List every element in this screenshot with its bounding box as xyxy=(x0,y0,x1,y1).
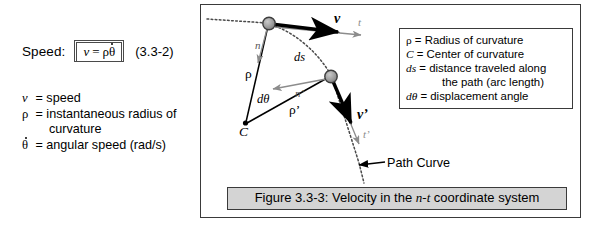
equation-box: v=ρθ xyxy=(74,40,124,62)
label-normal-n: n xyxy=(255,40,261,51)
legend-text-rho: = Radius of curvature xyxy=(415,34,524,46)
label-normal-n-prime: n’ xyxy=(295,88,304,99)
label-angle-dtheta: dθ xyxy=(257,93,269,106)
nomenclature-symbol-v: v xyxy=(22,91,32,107)
legend-text-dtheta: = displacement angle xyxy=(420,90,528,102)
speed-equation-row: Speed: v=ρθ (3.3-2) xyxy=(22,40,174,62)
nomenclature-list: v = speed ρ = instantaneous radius of cu… xyxy=(22,91,177,153)
nomenclature-text-v: = speed xyxy=(36,91,81,105)
legend-item-ds-cont: the path (arc length) xyxy=(406,75,567,89)
legend-item-C: C = Center of curvature xyxy=(406,47,567,61)
equation-inner: v=ρθ xyxy=(76,42,122,62)
figure-caption-suffix: coordinate system xyxy=(430,190,539,205)
legend-symbol-ds: ds xyxy=(406,62,416,74)
label-radius-rho: ρ xyxy=(245,67,252,81)
nomenclature-item-curvature: curvature xyxy=(22,122,177,138)
particle-node-1 xyxy=(263,17,275,29)
label-arc-ds: ds xyxy=(294,51,305,64)
figure-caption-prefix: Figure 3.3-3: Velocity in the xyxy=(255,190,416,205)
nomenclature-text-rho: = instantaneous radius of xyxy=(36,107,177,121)
label-center-C: C xyxy=(239,125,248,139)
legend-symbol-rho: ρ xyxy=(406,34,412,46)
label-velocity-v: v xyxy=(334,12,340,26)
speed-label: Speed: xyxy=(22,44,65,59)
equation-theta-dot: θ xyxy=(109,44,115,60)
path-curve-label: Path Curve xyxy=(387,156,450,170)
velocity-vector-v-prime xyxy=(332,79,351,123)
label-tangent-t-prime: t’ xyxy=(363,129,370,140)
nomenclature-item-rho: ρ = instantaneous radius of xyxy=(22,107,177,123)
legend-text-ds-cont: the path (arc length) xyxy=(442,76,544,88)
label-tangent-t: t xyxy=(358,17,361,28)
label-radius-rho-prime: ρ’ xyxy=(289,103,300,117)
legend-item-ds: ds = distance traveled along xyxy=(406,61,567,75)
definitions-column: Speed: v=ρθ (3.3-2) v = speed ρ = instan… xyxy=(0,0,200,228)
path-curve-leader-line xyxy=(359,162,385,165)
legend-item-rho: ρ = Radius of curvature xyxy=(406,33,567,47)
nomenclature-text-theta-dot: = angular speed (rad/s) xyxy=(36,138,167,152)
equation-number: (3.3-2) xyxy=(135,44,173,59)
legend-text-C: = Center of curvature xyxy=(417,48,524,60)
figure-panel: v t n ds ρ dθ ρ’ n’ v’ t’ C Path Curve ρ… xyxy=(200,4,581,218)
label-velocity-v-prime: v’ xyxy=(357,108,368,122)
nomenclature-symbol-theta-dot: θ xyxy=(22,138,32,154)
nomenclature-item-theta-dot: θ = angular speed (rad/s) xyxy=(22,138,177,154)
legend-symbol-C: C xyxy=(406,48,414,60)
particle-node-2 xyxy=(325,70,337,82)
equation-equals: = xyxy=(89,44,102,59)
nomenclature-text-curvature: curvature xyxy=(49,122,102,136)
nomenclature-item-v: v = speed xyxy=(22,91,177,107)
legend-item-dtheta: dθ = displacement angle xyxy=(406,89,567,103)
figure-caption-coordinate-system: n-t xyxy=(416,190,430,205)
legend-text-ds: = distance traveled along xyxy=(419,62,546,74)
nomenclature-symbol-rho: ρ xyxy=(22,107,32,123)
legend-box: ρ = Radius of curvature C = Center of cu… xyxy=(399,28,573,109)
figure-caption: Figure 3.3-3: Velocity in the n-t coordi… xyxy=(227,187,567,210)
legend-symbol-dtheta: dθ xyxy=(406,90,417,102)
